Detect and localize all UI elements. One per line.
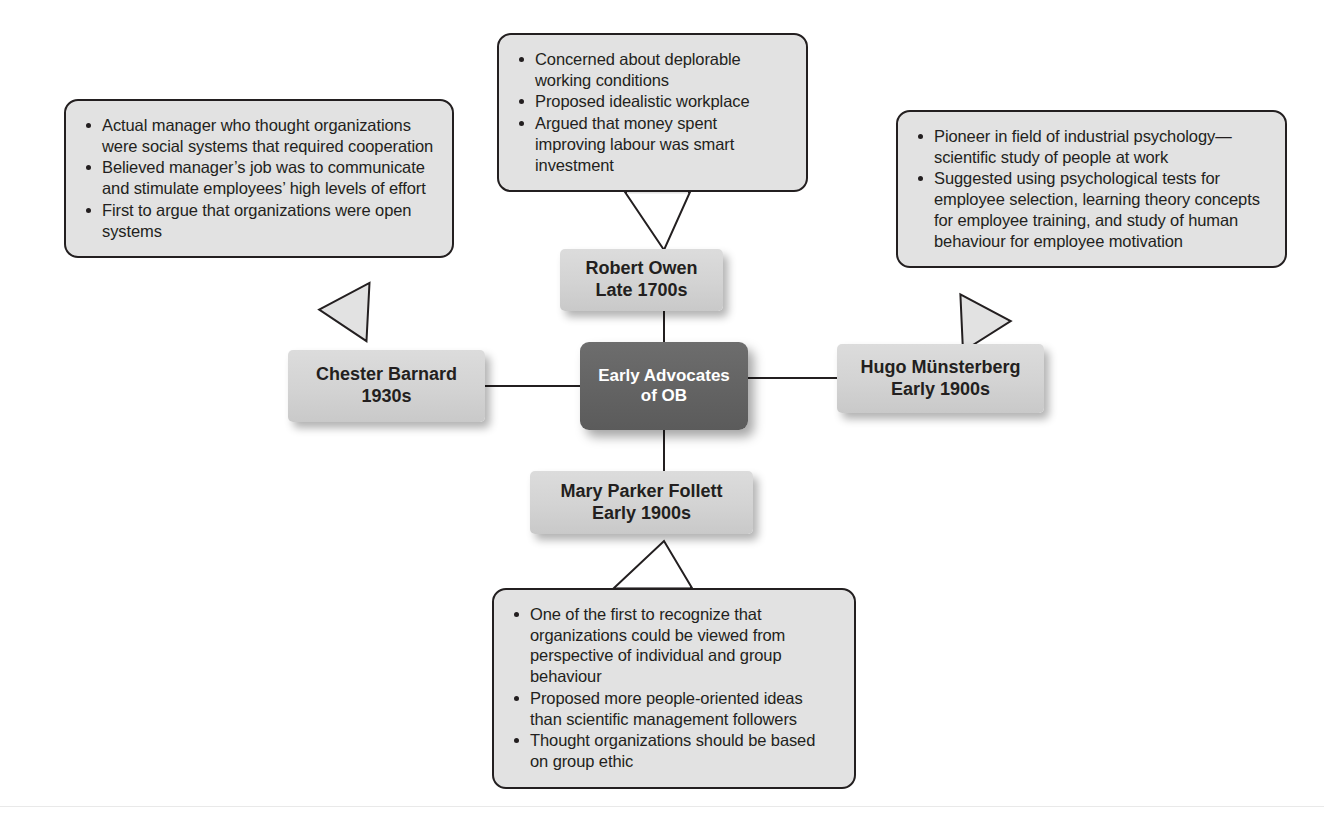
hub-node-line2: of OB <box>598 386 730 406</box>
node-name: Robert Owen <box>585 258 697 280</box>
node-hugo-munsterberg: Hugo Münsterberg Early 1900s <box>837 344 1044 413</box>
callout-tail-bottom <box>614 541 692 588</box>
callout-bullet-list: One of the first to recognize that organ… <box>508 604 836 772</box>
node-robert-owen: Robert Owen Late 1700s <box>560 249 723 311</box>
node-era: Early 1900s <box>560 503 722 525</box>
node-name: Hugo Münsterberg <box>861 357 1021 379</box>
callout-bullet: Proposed more people-oriented ideas than… <box>508 688 836 729</box>
diagram-canvas: Concerned about deplorable working condi… <box>0 0 1324 818</box>
callout-bullet-list: Concerned about deplorable working condi… <box>513 49 788 175</box>
node-name: Chester Barnard <box>316 364 457 386</box>
callout-bullet-list: Actual manager who thought organizations… <box>80 115 434 241</box>
node-name: Mary Parker Follett <box>560 481 722 503</box>
node-era: Early 1900s <box>861 379 1021 401</box>
callout-tail-left <box>319 283 393 354</box>
hub-node-line1: Early Advocates <box>598 366 730 386</box>
callout-bullet: Pioneer in field of industrial psycholog… <box>912 126 1267 167</box>
callout-bullet: Proposed idealistic workplace <box>513 91 788 112</box>
hub-node-early-advocates-of-ob: Early Advocates of OB <box>580 342 748 430</box>
callout-hugo-munsterberg: Pioneer in field of industrial psycholog… <box>896 110 1287 268</box>
node-mary-parker-follett: Mary Parker Follett Early 1900s <box>530 471 753 534</box>
callout-bullet: Believed manager’s job was to communicat… <box>80 157 434 198</box>
callout-robert-owen: Concerned about deplorable working condi… <box>497 33 808 192</box>
callout-bullet-list: Pioneer in field of industrial psycholog… <box>912 126 1267 251</box>
callout-bullet: One of the first to recognize that organ… <box>508 604 836 687</box>
callout-bullet: Actual manager who thought organizations… <box>80 115 434 156</box>
node-era: Late 1700s <box>585 280 697 302</box>
node-era: 1930s <box>316 386 457 408</box>
node-chester-barnard: Chester Barnard 1930s <box>288 350 485 422</box>
callout-chester-barnard: Actual manager who thought organizations… <box>64 99 454 258</box>
callout-bullet: Thought organizations should be based on… <box>508 730 836 771</box>
callout-bullet: Suggested using psychological tests for … <box>912 168 1267 251</box>
callout-mary-parker-follett: One of the first to recognize that organ… <box>492 588 856 789</box>
callout-bullet: First to argue that organizations were o… <box>80 200 434 241</box>
callout-tail-top <box>625 192 690 250</box>
page-bottom-rule <box>0 806 1324 807</box>
callout-bullet: Argued that money spent improving labour… <box>513 113 788 175</box>
callout-bullet: Concerned about deplorable working condi… <box>513 49 788 90</box>
